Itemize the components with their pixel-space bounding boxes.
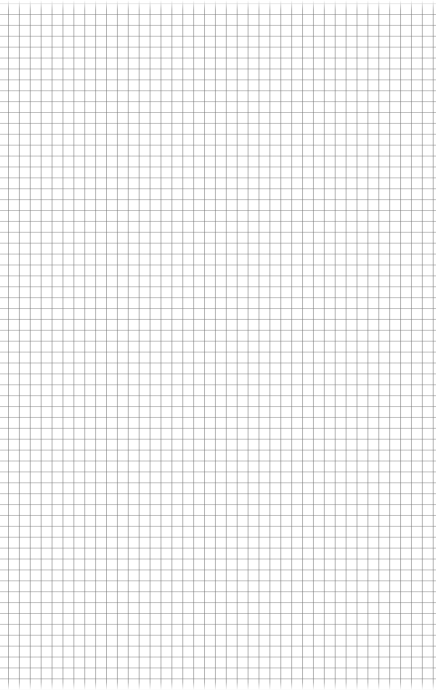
bottom-edge-fade <box>0 682 436 690</box>
top-edge-fade <box>0 0 436 10</box>
grid-paper <box>0 0 436 690</box>
